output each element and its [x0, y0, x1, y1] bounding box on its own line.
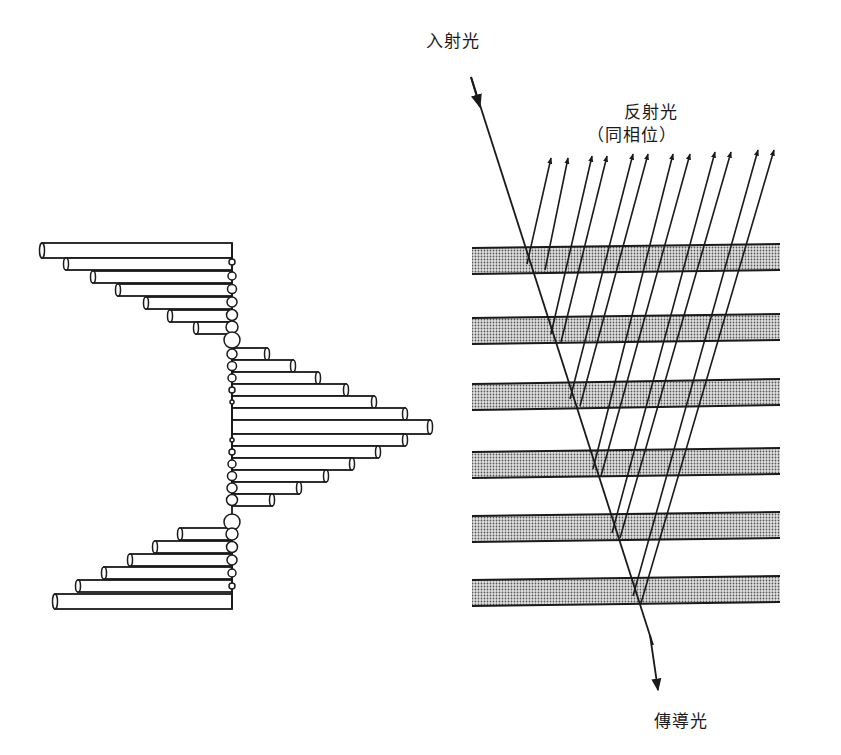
bar-end-cap [350, 458, 355, 470]
profile-bar [42, 243, 232, 258]
transmitted-arrow-icon [650, 635, 658, 690]
bar-end-cap [428, 420, 433, 434]
bar-end-cap [91, 271, 96, 283]
reflected-light-label: 反射光 [624, 98, 678, 123]
index-circle [228, 272, 236, 280]
index-circle [229, 259, 235, 265]
reflected-in-phase-label: （同相位） [587, 121, 677, 146]
profile-bar [232, 420, 430, 434]
bar-end-cap [376, 446, 381, 458]
bar-end-cap [76, 580, 81, 592]
bar-end-cap [316, 372, 321, 384]
profile-bar [170, 310, 232, 322]
reflected-ray [580, 154, 648, 406]
profile-bar [118, 284, 232, 296]
index-circle [227, 495, 238, 506]
bar-end-cap [265, 348, 270, 360]
bar-end-cap [53, 594, 58, 609]
index-circle [227, 297, 237, 307]
bar-end-cap [178, 528, 183, 540]
index-circle [227, 310, 238, 321]
profile-bar [66, 258, 232, 270]
profile-bar [93, 271, 232, 283]
profile-bar [146, 297, 232, 309]
index-circle [228, 569, 236, 577]
index-circle [226, 321, 238, 333]
profile-bar [55, 594, 232, 609]
profile-bar [232, 458, 352, 470]
index-circle [227, 483, 237, 493]
profile-bar [232, 470, 326, 482]
index-circle [228, 472, 237, 481]
bar-end-cap [40, 243, 45, 258]
index-circle [227, 349, 237, 359]
index-circle [228, 285, 237, 294]
bar-end-cap [291, 360, 296, 372]
index-circle [229, 387, 235, 393]
profile-bar [232, 360, 293, 372]
profile-bar [78, 580, 232, 592]
reflected-ray [570, 154, 633, 399]
index-circle [227, 555, 237, 565]
multilayer-bands [472, 244, 780, 606]
profile-bar [232, 408, 405, 420]
profile-bar [232, 396, 374, 408]
index-circle [229, 449, 235, 455]
bar-end-cap [270, 494, 275, 506]
profile-bar [130, 554, 232, 566]
bar-end-cap [116, 284, 121, 296]
profile-bar [232, 384, 346, 396]
index-circle [228, 362, 237, 371]
bragg-reflection-diagram [0, 0, 841, 755]
profile-bar [232, 372, 318, 384]
bar-end-cap [102, 567, 107, 579]
bar-end-cap [344, 384, 349, 396]
index-circle [230, 400, 234, 404]
profile-bar [232, 482, 299, 494]
bar-end-cap [324, 470, 329, 482]
dielectric-layer [472, 576, 780, 606]
bar-end-cap [153, 541, 158, 553]
incident-ray [471, 77, 653, 645]
reflected-ray [551, 156, 592, 334]
bar-end-cap [128, 554, 133, 566]
refractive-index-profile [40, 243, 433, 609]
bar-end-cap [297, 482, 302, 494]
profile-bar [232, 434, 405, 446]
profile-bar [155, 541, 232, 553]
bar-end-cap [372, 396, 377, 408]
dielectric-layer [472, 448, 780, 478]
profile-bar [104, 567, 232, 579]
bar-end-cap [64, 258, 69, 270]
profile-bar [232, 446, 378, 458]
bar-end-cap [403, 408, 408, 420]
transmitted-light-label: 傳導光 [654, 707, 708, 732]
index-circle [228, 460, 236, 468]
dielectric-layer [472, 244, 780, 274]
bar-end-cap [403, 434, 408, 446]
profile-bar [180, 528, 232, 540]
index-circle [228, 374, 236, 382]
bar-end-cap [168, 310, 173, 322]
index-circle [229, 583, 235, 589]
index-circle [226, 528, 238, 540]
index-circle [230, 438, 234, 442]
bar-end-cap [144, 297, 149, 309]
bar-end-cap [194, 322, 199, 334]
index-circle [224, 332, 240, 348]
index-circle [227, 542, 238, 553]
incident-light-label: 入射光 [426, 27, 480, 52]
